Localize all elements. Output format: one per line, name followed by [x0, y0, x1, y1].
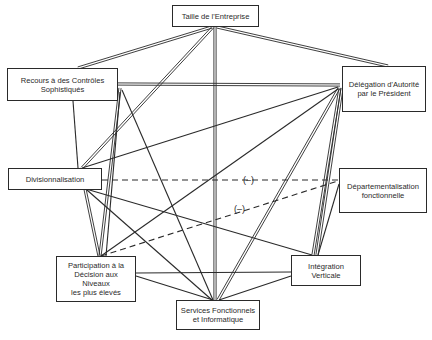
edge-division-integration: [86, 189, 312, 255]
edge-taille-delegation: [217, 26, 388, 67]
edge-taille-services: [214, 27, 216, 300]
node-division: Divisionnalisation: [8, 168, 102, 190]
node-departement: Départementalisation fonctionnelle: [339, 168, 427, 213]
negative-relation-label: (–): [234, 204, 245, 214]
node-delegation: Délégation d'Autorité par le Président: [342, 66, 426, 112]
edge-recours-delegation: [118, 83, 340, 86]
node-taille: Taille de l'Entreprise: [172, 5, 259, 27]
negative-relation-label: (–): [243, 175, 254, 185]
edge-participation-departement: [101, 181, 338, 256]
edge-recours-participation-b: [106, 92, 120, 256]
edge-delegation-division: [82, 87, 338, 168]
edge-integration-services: [219, 276, 291, 300]
node-recours: Recours à des Contrôles Sophistiqués: [7, 68, 118, 101]
edge-recours-division: [73, 101, 78, 168]
node-participation: Participation à la Décision aux Niveaux …: [56, 256, 136, 302]
edge-participation-services: [136, 276, 213, 300]
edge-participation-integration: [136, 272, 291, 273]
edge-delegation-participation: [101, 89, 338, 256]
node-services: Services Fonctionnels et Informatique: [176, 300, 260, 330]
node-integration: Intégration Verticale: [291, 255, 361, 286]
